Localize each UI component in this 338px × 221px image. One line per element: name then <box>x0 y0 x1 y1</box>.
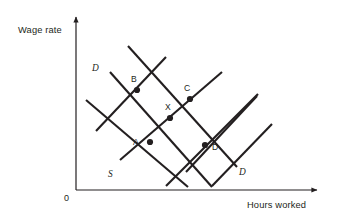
supply-curve-label: S <box>108 169 113 179</box>
curve-labels-group: D D S <box>91 63 246 179</box>
point-label-a: A <box>133 137 139 147</box>
demand-curve-4 <box>186 96 257 172</box>
point-dot-a <box>147 139 153 145</box>
point-label-b: B <box>131 74 137 84</box>
figure-container: B C X A D D D S Wage rate Hours worked 0 <box>0 0 338 221</box>
point-label-x: X <box>165 102 171 112</box>
point-dot-c <box>187 96 193 102</box>
point-label-d: D <box>212 142 218 152</box>
demand-curve-label-upper: D <box>91 63 99 73</box>
point-dot-x <box>167 115 173 121</box>
demand-curve-label-lower: D <box>238 167 246 177</box>
demand-curve-1 <box>110 72 212 187</box>
point-label-c: C <box>184 83 190 93</box>
point-dot-b <box>134 87 140 93</box>
point-dot-d <box>202 142 208 148</box>
origin-label: 0 <box>64 193 69 203</box>
axes-group <box>76 17 317 190</box>
supply-demand-diagram: B C X A D D D S Wage rate Hours worked 0 <box>0 0 338 221</box>
y-axis-label: Wage rate <box>18 25 62 35</box>
supply-curve-3 <box>96 57 166 131</box>
axis-titles-group: Wage rate Hours worked 0 <box>18 25 306 210</box>
x-axis-label: Hours worked <box>247 200 306 210</box>
